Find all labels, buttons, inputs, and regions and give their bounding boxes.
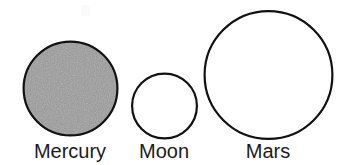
mars-label: Mars bbox=[218, 141, 318, 161]
moon-label: Moon bbox=[124, 141, 204, 161]
mars-circle bbox=[205, 11, 333, 139]
planet-size-comparison-figure: Mercury Moon Mars bbox=[0, 0, 356, 165]
mercury-label: Mercury bbox=[0, 141, 140, 161]
moon-circle bbox=[132, 74, 197, 139]
scan-artifact bbox=[81, 5, 90, 16]
